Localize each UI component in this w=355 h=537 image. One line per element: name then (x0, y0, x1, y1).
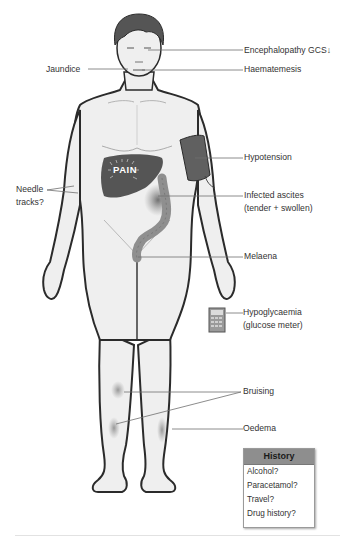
history-item-paracetamol: Paracetamol? (244, 479, 314, 493)
arm-right (43, 110, 80, 299)
history-item-travel: Travel? (244, 493, 314, 507)
bruise-shin (108, 417, 120, 439)
label-haematemesis: Haematemesis (244, 63, 301, 76)
legs (93, 330, 176, 492)
history-item-drug-history: Drug history? (244, 507, 314, 521)
hypoglycaemia-line1: Hypoglycaemia (243, 306, 303, 319)
label-oedema: Oedema (243, 422, 276, 435)
bruise-knee (111, 381, 125, 399)
footer-divider (15, 535, 340, 536)
label-infected-ascites: Infected ascites (tender + swollen) (244, 189, 313, 215)
label-melaena: Melaena (244, 250, 277, 263)
pain-label: PAIN (113, 164, 137, 175)
head (114, 14, 163, 90)
needle-tracks-line2: tracks? (16, 196, 44, 209)
label-encephalopathy: Encephalopathy GCS↓ (244, 44, 331, 57)
hypoglycaemia-line2: (glucose meter) (243, 319, 303, 332)
infected-ascites-line1: Infected ascites (244, 189, 313, 202)
glucose-meter-icon (209, 308, 225, 332)
history-box: History Alcohol? Paracetamol? Travel? Dr… (243, 448, 315, 528)
torso (74, 75, 201, 340)
history-item-alcohol: Alcohol? (244, 465, 314, 479)
label-hypoglycaemia: Hypoglycaemia (glucose meter) (243, 306, 303, 332)
history-title: History (244, 449, 314, 465)
infected-ascites-line2: (tender + swollen) (244, 202, 313, 215)
needle-tracks-line1: Needle (16, 183, 44, 196)
label-bruising: Bruising (243, 385, 274, 398)
label-jaundice: Jaundice (46, 63, 80, 76)
label-needle-tracks: Needle tracks? (16, 183, 44, 209)
label-hypotension: Hypotension (244, 151, 292, 164)
down-arrow-icon: ↓ (327, 45, 331, 55)
oedema-shading (157, 417, 167, 443)
encephalopathy-text: Encephalopathy GCS (244, 45, 327, 55)
